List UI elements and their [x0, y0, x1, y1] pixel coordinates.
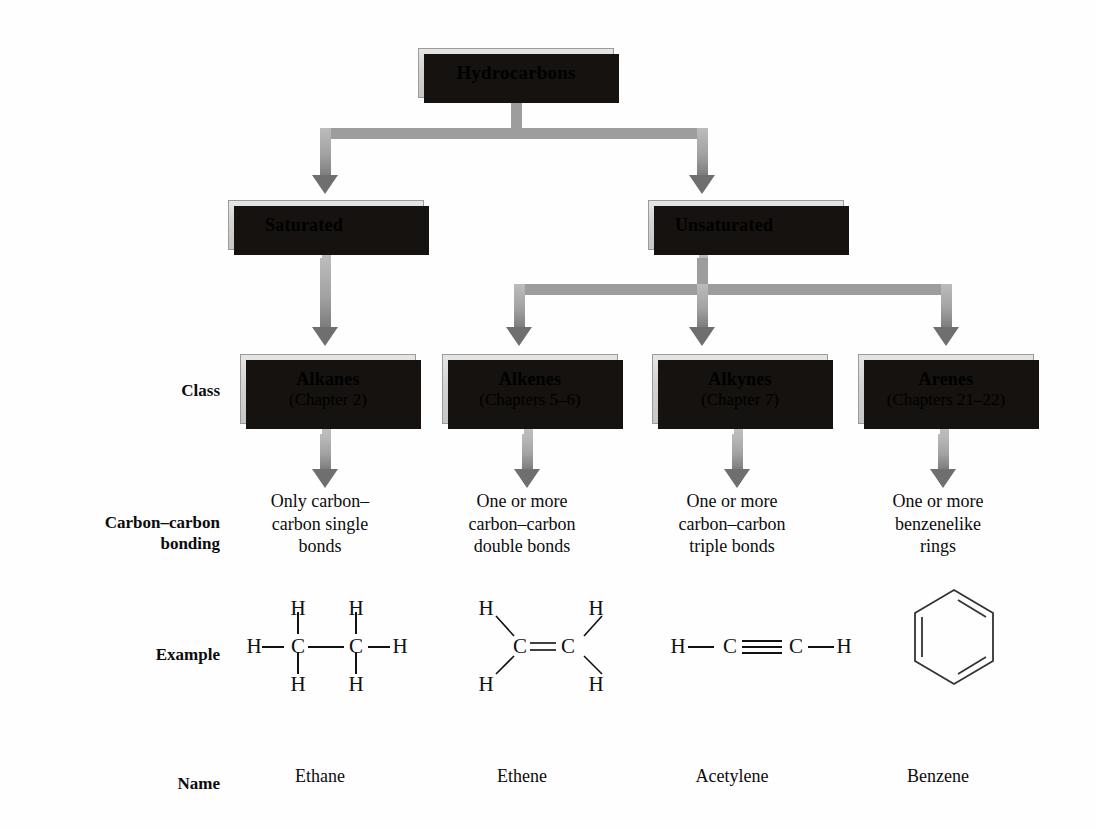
ethane-h-bot-right: H: [346, 674, 366, 695]
arrowhead-saturated: [312, 175, 338, 194]
arrowhead-alkenes: [506, 327, 532, 346]
acetylene-bond-hleft-c1: [688, 646, 714, 648]
ethane-h-left: H: [244, 636, 264, 657]
arrowhead-bonding-4: [930, 469, 956, 488]
bonding-alkynes-line2: carbon–carbon: [642, 513, 822, 536]
bonding-cell-arenes: One or more benzenelike rings: [848, 490, 1028, 558]
node-unsaturated[interactable]: Unsaturated: [648, 200, 844, 250]
node-class-alkynes[interactable]: Alkynes (Chapter 7): [652, 354, 828, 424]
ethane-bond-hleft-c1: [262, 646, 284, 648]
node-saturated[interactable]: Saturated: [228, 200, 424, 250]
bonding-alkanes-line2: carbon single: [230, 513, 410, 536]
node-class-arenes[interactable]: Arenes (Chapters 21–22): [858, 354, 1034, 424]
bonding-cell-alkynes: One or more carbon–carbon triple bonds: [642, 490, 822, 558]
ethane-bond-c1-htop: [297, 612, 299, 634]
bonding-arenes-line2: benzenelike: [848, 513, 1028, 536]
name-cell-acetylene: Acetylene: [642, 765, 822, 788]
connector-bonding-arm-3: [732, 434, 743, 470]
ethane-h-right: H: [390, 636, 410, 657]
structure-benzene: [906, 586, 1002, 690]
arrowhead-alkanes: [312, 327, 338, 346]
structure-ethane: H H C C H H H H: [246, 598, 416, 694]
acetylene-c2: C: [786, 636, 806, 657]
bonding-alkenes-line3: double bonds: [432, 535, 612, 558]
arrowhead-arenes: [933, 327, 959, 346]
node-alkynes-chapter: (Chapter 7): [701, 390, 779, 409]
name-cell-ethene: Ethene: [432, 765, 612, 788]
row-label-example: Example: [20, 644, 220, 665]
acetylene-h-right: H: [834, 636, 854, 657]
node-saturated-label: Saturated: [265, 215, 343, 235]
node-alkanes-name: Alkanes: [296, 369, 359, 389]
bonding-cell-alkanes: Only carbon– carbon single bonds: [230, 490, 410, 558]
bonding-alkenes-line2: carbon–carbon: [432, 513, 612, 536]
node-class-alkanes[interactable]: Alkanes (Chapter 2): [240, 354, 416, 424]
row-label-bonding: Carbon–carbon bonding: [20, 512, 220, 555]
connector-bonding-arm-1: [320, 434, 331, 470]
node-hydrocarbons-label: Hydrocarbons: [456, 62, 575, 83]
acetylene-bond-c2-hright: [808, 646, 834, 648]
connector-level2-bar: [514, 284, 952, 295]
structure-ethene: H H C C H H: [462, 598, 638, 694]
ethane-h-bot-left: H: [288, 674, 308, 695]
bonding-alkynes-line3: triple bonds: [642, 535, 822, 558]
row-label-bonding-line1: Carbon–carbon: [20, 512, 220, 533]
connector-bonding-arm-4: [938, 434, 949, 470]
bonding-arenes-line3: rings: [848, 535, 1028, 558]
acetylene-triple-bond-upper: [742, 640, 782, 642]
arrowhead-unsaturated: [689, 175, 715, 194]
arrowhead-bonding-1: [312, 469, 338, 488]
benzene-double-bond-lower-right: [958, 657, 986, 674]
ethane-bond-c2-hright: [368, 646, 390, 648]
row-label-bonding-line2: bonding: [20, 533, 220, 554]
bonding-alkenes-line1: One or more: [432, 490, 612, 513]
node-arenes-name: Arenes: [919, 369, 974, 389]
ethane-bond-c2-hbot: [355, 652, 357, 674]
ethane-bond-c2-htop: [355, 612, 357, 634]
connector-alkanes-arm: [320, 258, 331, 328]
node-alkynes-name: Alkynes: [708, 369, 771, 389]
bonding-alkynes-line1: One or more: [642, 490, 822, 513]
hydrocarbons-flowchart: Hydrocarbons Saturated Unsaturated Alkan…: [0, 0, 1095, 828]
node-alkanes-chapter: (Chapter 2): [289, 390, 367, 409]
connector-unsaturated-arm: [697, 128, 708, 176]
name-cell-benzene: Benzene: [848, 765, 1028, 788]
connector-level1-bar: [320, 128, 708, 139]
node-alkenes-chapter: (Chapters 5–6): [479, 390, 581, 409]
row-label-class: Class: [20, 380, 220, 401]
connector-arenes-arm: [941, 284, 952, 328]
acetylene-triple-bond-middle: [742, 646, 782, 648]
bonding-cell-alkenes: One or more carbon–carbon double bonds: [432, 490, 612, 558]
name-cell-ethane: Ethane: [230, 765, 410, 788]
arrowhead-bonding-3: [724, 469, 750, 488]
acetylene-h-left: H: [668, 636, 688, 657]
acetylene-c1: C: [720, 636, 740, 657]
node-hydrocarbons[interactable]: Hydrocarbons: [418, 48, 614, 98]
connector-alkynes-arm: [697, 284, 708, 328]
node-class-alkenes[interactable]: Alkenes (Chapters 5–6): [442, 354, 618, 424]
bonding-alkanes-line1: Only carbon–: [230, 490, 410, 513]
node-arenes-chapter: (Chapters 21–22): [887, 390, 1006, 409]
ethane-bond-c1-c2: [308, 646, 344, 648]
connector-alkenes-arm: [514, 284, 525, 328]
acetylene-triple-bond-lower: [742, 652, 782, 654]
row-label-name: Name: [20, 773, 220, 794]
node-alkenes-name: Alkenes: [499, 369, 561, 389]
benzene-double-bond-upper-right: [958, 600, 986, 617]
connector-saturated-arm: [320, 128, 331, 176]
structure-acetylene: H C C H: [668, 636, 848, 668]
bonding-alkanes-line3: bonds: [230, 535, 410, 558]
arrowhead-alkynes: [689, 327, 715, 346]
arrowhead-bonding-2: [514, 469, 540, 488]
ethene-bond-lines: [462, 598, 638, 694]
node-unsaturated-label: Unsaturated: [675, 215, 773, 235]
bonding-arenes-line1: One or more: [848, 490, 1028, 513]
connector-bonding-arm-2: [522, 434, 533, 470]
ethane-bond-c1-hbot: [297, 652, 299, 674]
benzene-ring-svg: [906, 586, 1002, 690]
benzene-hexagon: [915, 590, 993, 684]
